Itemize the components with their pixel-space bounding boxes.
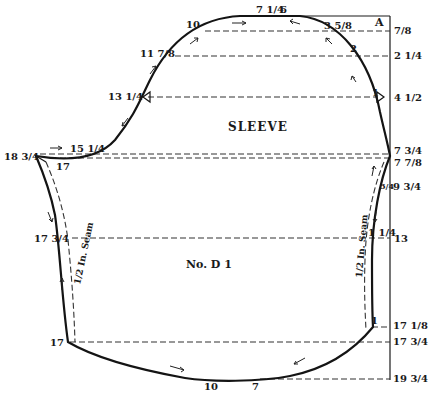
side-label: 17 bbox=[50, 337, 64, 348]
curve-label: 1 bbox=[372, 87, 379, 98]
bottom-label: 10 bbox=[204, 381, 218, 392]
sleeve-outline bbox=[36, 16, 390, 381]
sleeve-title: SLEEVE bbox=[228, 120, 288, 134]
sleeve-pattern-diagram: SLEEVE No. D 1 A 7/8 2 1/4 4 1/2 7 3/4 7… bbox=[0, 0, 432, 409]
scale-label: 2 1/4 bbox=[394, 50, 422, 61]
scale-label: 17 1/8 bbox=[393, 320, 428, 331]
cap-label: 15 1/4 bbox=[70, 143, 105, 154]
direction-arrows bbox=[48, 19, 377, 372]
left-seam-line bbox=[46, 162, 75, 342]
left-seam-label: 1/2 In. Seam bbox=[72, 221, 95, 286]
curve-label: 2 bbox=[350, 43, 357, 54]
side-label: 3/4 bbox=[380, 181, 394, 191]
scale-label: 7 7/8 bbox=[394, 157, 422, 168]
side-label: 17 3/4 bbox=[34, 233, 69, 244]
right-seam-label: 1/2 In. Seam bbox=[354, 214, 370, 279]
side-label: 1 bbox=[371, 315, 378, 326]
scale-label: 4 1/2 bbox=[394, 92, 422, 103]
curve-label: 6 bbox=[280, 4, 287, 15]
pattern-id: No. D 1 bbox=[186, 258, 232, 271]
scale-label: 19 3/4 bbox=[393, 373, 428, 384]
scale-label: 7 3/4 bbox=[394, 145, 422, 156]
corner-label-a: A bbox=[374, 16, 384, 29]
scale-label: 13 bbox=[394, 233, 408, 244]
bottom-label: 7 bbox=[252, 381, 259, 392]
side-label: 1 1/4 bbox=[368, 227, 396, 238]
cap-label: 13 1/4 bbox=[108, 91, 143, 102]
curve-label: 3 5/8 bbox=[324, 20, 352, 31]
scale-label: 7/8 bbox=[394, 25, 412, 36]
guide-lines bbox=[40, 31, 390, 379]
cap-label: 11 7/8 bbox=[140, 48, 175, 59]
cap-label: 18 3/4 bbox=[4, 151, 39, 162]
scale-label: 17 3/4 bbox=[393, 336, 428, 347]
curve-label: 10 bbox=[186, 19, 200, 30]
scale-label: 9 3/4 bbox=[393, 181, 421, 192]
cap-label: 17 bbox=[56, 161, 70, 172]
